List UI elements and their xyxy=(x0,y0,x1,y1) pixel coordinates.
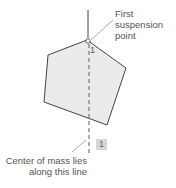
com-leader-line xyxy=(72,140,86,152)
point-marker-label: 1 xyxy=(90,45,95,55)
com-label-line2: along this line xyxy=(29,166,87,177)
suspension-label-line2: suspension xyxy=(115,19,163,30)
suspension-label-line1: First xyxy=(115,8,133,19)
com-label-line1: Center of mass lies xyxy=(6,155,87,166)
irregular-object xyxy=(44,40,126,125)
suspension-label-line3: point xyxy=(115,30,136,41)
suspension-pin xyxy=(86,39,90,43)
step-badge: 1 xyxy=(96,139,107,150)
suspension-leader-line xyxy=(91,20,113,40)
